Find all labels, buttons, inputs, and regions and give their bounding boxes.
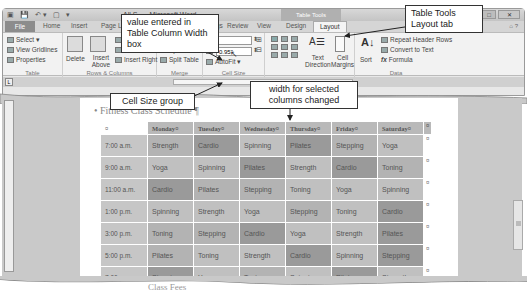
distribute-columns-button[interactable]: ⊟ bbox=[256, 46, 262, 54]
table-cell[interactable]: Stepping bbox=[286, 201, 331, 222]
table-cell[interactable]: Strength bbox=[332, 223, 377, 244]
time-cell[interactable]: 3:00 p.m. bbox=[101, 223, 147, 244]
table-cell[interactable]: Stepping bbox=[332, 135, 377, 156]
delete-button[interactable]: Delete bbox=[66, 55, 85, 62]
table-cell[interactable]: Strength bbox=[194, 201, 239, 222]
header-cell[interactable]: Wednesday¤ bbox=[240, 122, 285, 134]
table-cell[interactable]: Stepping bbox=[378, 245, 423, 266]
table-cell[interactable]: Stepping bbox=[194, 223, 239, 244]
time-cell[interactable]: 7:00 a.m. bbox=[101, 135, 147, 156]
tab-review[interactable]: Review bbox=[227, 22, 248, 29]
gridlines-icon bbox=[7, 47, 14, 53]
row-end-mark: ¤ bbox=[424, 201, 431, 222]
header-cell[interactable]: Tuesday¤ bbox=[194, 122, 239, 134]
tab-file[interactable]: File bbox=[5, 21, 35, 32]
header-cell[interactable]: Monday¤ bbox=[148, 122, 193, 134]
insert-above-button[interactable]: Insert Above bbox=[89, 54, 113, 68]
table-cell[interactable]: Strength bbox=[286, 157, 331, 178]
text-direction-button[interactable]: Text Direction bbox=[305, 54, 329, 68]
time-cell[interactable]: 5:00 p.m. bbox=[101, 245, 147, 266]
group-label-cell-size: Cell Size bbox=[203, 70, 264, 76]
tab-view[interactable]: View bbox=[257, 22, 271, 29]
table-cell[interactable]: Spinning bbox=[332, 245, 377, 266]
align-bottom-right-icon[interactable] bbox=[291, 52, 298, 58]
align-center-icon[interactable] bbox=[281, 44, 288, 50]
table-cell[interactable]: Cardio bbox=[286, 245, 331, 266]
time-cell[interactable]: 11:00 a.m. bbox=[101, 179, 147, 200]
repeat-header-rows-button[interactable]: Repeat Header Rows bbox=[381, 36, 452, 43]
distribute-rows-button[interactable]: ⊞ bbox=[256, 36, 262, 44]
table-cell[interactable]: Yoga bbox=[240, 201, 285, 222]
table-cell[interactable]: Toning bbox=[378, 157, 423, 178]
table-cell[interactable]: Cardio bbox=[240, 223, 285, 244]
table-cell[interactable]: Cardio bbox=[378, 201, 423, 222]
table-cell[interactable]: Toning bbox=[332, 201, 377, 222]
align-top-right-icon[interactable] bbox=[291, 36, 298, 42]
header-cell[interactable]: Friday¤ bbox=[332, 122, 377, 134]
select-button[interactable]: Select ▾ bbox=[7, 36, 40, 44]
sort-button[interactable]: Sort bbox=[360, 56, 372, 63]
tab-insert[interactable]: Insert bbox=[71, 22, 87, 29]
row-end-mark: ¤ bbox=[424, 245, 431, 266]
table-cell[interactable]: Cardio bbox=[332, 157, 377, 178]
align-top-left-icon[interactable] bbox=[271, 36, 278, 42]
vertical-ruler[interactable] bbox=[4, 100, 14, 272]
close-button[interactable]: ✕ bbox=[498, 10, 520, 19]
help-icon[interactable]: ⌂ ? bbox=[509, 23, 518, 29]
table-cell[interactable]: Yoga bbox=[332, 179, 377, 200]
delete-icon[interactable] bbox=[67, 36, 83, 52]
table-cell[interactable]: Spinning bbox=[240, 135, 285, 156]
table-row-height-input[interactable] bbox=[216, 36, 252, 45]
insert-above-icon[interactable] bbox=[90, 36, 106, 52]
insert-right-button[interactable]: Insert Right bbox=[115, 56, 157, 63]
tab-home[interactable]: Home bbox=[43, 22, 60, 29]
table-cell[interactable]: Pilates bbox=[194, 179, 239, 200]
maximize-button[interactable]: □ bbox=[482, 10, 496, 19]
table-cell[interactable]: Toning bbox=[286, 179, 331, 200]
insert-right-icon bbox=[115, 57, 122, 63]
table-cell[interactable]: Pilates bbox=[240, 157, 285, 178]
cell-margins-button[interactable]: Cell Margins bbox=[331, 54, 353, 68]
table-cell[interactable]: Spinning bbox=[194, 157, 239, 178]
align-bottom-left-icon[interactable] bbox=[271, 52, 278, 58]
table-cell[interactable]: Toning bbox=[148, 223, 193, 244]
time-cell[interactable]: 1:00 p.m. bbox=[101, 201, 147, 222]
tab-design[interactable]: Design bbox=[286, 22, 306, 29]
header-cell-blank[interactable]: ¤ bbox=[101, 122, 147, 134]
table-tools-contextual-label: Table Tools bbox=[281, 9, 341, 21]
formula-button[interactable]: fxFormula bbox=[381, 56, 413, 63]
table-cell[interactable]: Spinning bbox=[378, 179, 423, 200]
scrollbar-thumb[interactable] bbox=[516, 221, 521, 226]
table-cell[interactable]: Yoga bbox=[148, 157, 193, 178]
tab-selector[interactable]: L bbox=[5, 78, 13, 86]
header-cell[interactable]: Saturday¤ bbox=[378, 122, 423, 134]
quick-access-toolbar[interactable]: ▣ 💾 ↶▾ ▢ ▾ bbox=[7, 11, 72, 19]
table-cell[interactable]: Pilates bbox=[286, 135, 331, 156]
time-cell[interactable]: 9:00 a.m. bbox=[101, 157, 147, 178]
table-cell[interactable]: Cardio bbox=[194, 135, 239, 156]
table-row: 9:00 a.m. Yoga Spinning Pilates Strength… bbox=[101, 157, 431, 178]
table-cell[interactable]: Pilates bbox=[148, 245, 193, 266]
table-cell[interactable]: Spinning bbox=[148, 201, 193, 222]
schedule-table[interactable]: ¤ Monday¤ Tuesday¤ Wednesday¤ Thursday¤ … bbox=[100, 121, 432, 289]
table-cell[interactable]: Yoga bbox=[378, 135, 423, 156]
table-cell[interactable]: Toning bbox=[194, 245, 239, 266]
align-bottom-center-icon[interactable] bbox=[281, 52, 288, 58]
autofit-button[interactable]: AutoFit ▾ bbox=[206, 58, 241, 66]
table-cell[interactable]: Strength bbox=[240, 245, 285, 266]
view-gridlines-button[interactable]: View Gridlines bbox=[7, 46, 57, 53]
vertical-scrollbar[interactable] bbox=[513, 200, 523, 250]
table-cell[interactable]: Pilates bbox=[378, 223, 423, 244]
table-cell[interactable]: Stepping bbox=[240, 179, 285, 200]
align-center-left-icon[interactable] bbox=[271, 44, 278, 50]
table-cell[interactable]: Yoga bbox=[286, 223, 331, 244]
header-cell[interactable]: Thursday¤ bbox=[286, 122, 331, 134]
table-cell[interactable]: Cardio bbox=[148, 179, 193, 200]
align-top-center-icon[interactable] bbox=[281, 36, 288, 42]
cell-alignment-grid[interactable] bbox=[271, 36, 299, 58]
split-table-button[interactable]: Split Table bbox=[160, 56, 199, 63]
align-center-right-icon[interactable] bbox=[291, 44, 298, 50]
properties-button[interactable]: Properties bbox=[7, 56, 46, 63]
convert-to-text-button[interactable]: Convert to Text bbox=[381, 46, 434, 53]
table-cell[interactable]: Strength bbox=[148, 135, 193, 156]
